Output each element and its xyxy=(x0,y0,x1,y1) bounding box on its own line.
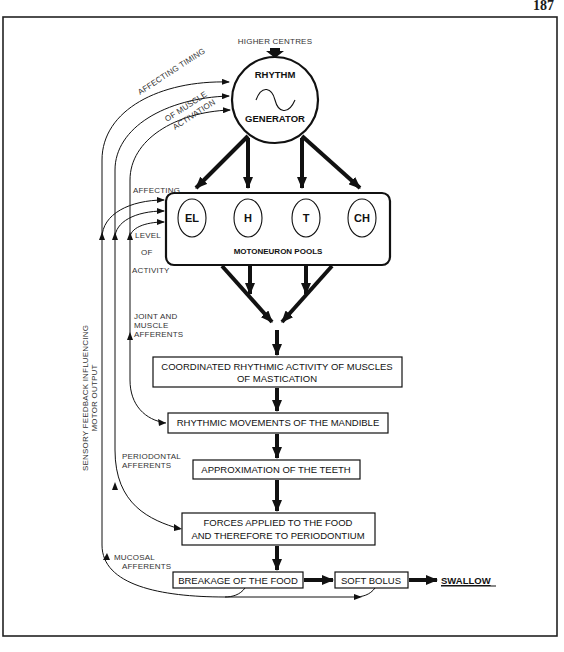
coordinated-activity-box: COORDINATED RHYTHMIC ACTIVITY OF MUSCLES… xyxy=(153,357,402,387)
pool-t: T xyxy=(303,212,310,224)
periodontal-afferents-line1: PERIODONTAL xyxy=(122,452,181,461)
affecting-label: AFFECTING xyxy=(133,186,180,195)
higher-centres-label: HIGHER CENTRES xyxy=(238,37,312,46)
mucosal-afferents-line1: MUCOSAL xyxy=(114,553,155,562)
swallow-label: SWALLOW xyxy=(441,575,491,586)
rhythmic-movements-label: RHYTHMIC MOVEMENTS OF THE MANDIBLE xyxy=(177,417,380,428)
rhythm-generator: RHYTHM GENERATOR xyxy=(232,57,318,143)
approximation-label: APPROXIMATION OF THE TEETH xyxy=(201,464,351,475)
joint-afferents-line3: AFFERENTS xyxy=(134,330,183,339)
pool-ch: CH xyxy=(354,212,370,224)
joint-afferents-line2: MUSCLE xyxy=(134,321,169,330)
coordinated-line2: OF MASTICATION xyxy=(237,373,317,384)
approximation-box: APPROXIMATION OF THE TEETH xyxy=(193,460,360,479)
soft-bolus-box: SOFT BOLUS xyxy=(335,572,408,588)
of-label: OF xyxy=(141,248,153,257)
pool-el: EL xyxy=(185,212,199,224)
pools-to-output-arrows xyxy=(222,266,332,355)
soft-bolus-label: SOFT BOLUS xyxy=(341,575,401,586)
breakage-label: BREAKAGE OF THE FOOD xyxy=(178,575,298,586)
coordinated-line1: COORDINATED RHYTHMIC ACTIVITY OF MUSCLES xyxy=(161,361,392,372)
periodontal-afferents-line2: AFFERENTS xyxy=(122,461,171,470)
level-label: LEVEL xyxy=(135,231,161,240)
forces-line2: AND THEREFORE TO PERIODONTIUM xyxy=(191,530,364,541)
forces-line1: FORCES APPLIED TO THE FOOD xyxy=(204,517,353,528)
mucosal-afferents-line2: AFFERENTS xyxy=(122,562,171,571)
activity-label: ACTIVITY xyxy=(132,266,170,275)
motoneuron-pools-title: MOTONEURON POOLS xyxy=(234,247,323,256)
generator-label: GENERATOR xyxy=(245,113,305,124)
sensory-feedback-line1: SENSORY FEEDBACK INFLUENCING xyxy=(81,325,90,471)
rhythmic-movements-box: RHYTHMIC MOVEMENTS OF THE MANDIBLE xyxy=(168,413,388,433)
mastication-control-diagram: HIGHER CENTRES RHYTHM GENERATOR EL H T C… xyxy=(0,0,564,652)
rhythm-label: RHYTHM xyxy=(255,69,296,80)
sensory-feedback-line2: MOTOR OUTPUT xyxy=(90,364,99,431)
pool-h: H xyxy=(244,212,252,224)
forces-box: FORCES APPLIED TO THE FOOD AND THEREFORE… xyxy=(182,513,375,545)
motoneuron-pools-box: EL H T CH MOTONEURON POOLS xyxy=(166,193,390,265)
joint-afferents-line1: JOINT AND xyxy=(134,312,177,321)
affecting-timing-label: AFFECTING TIMING xyxy=(136,46,207,96)
breakage-box: BREAKAGE OF THE FOOD xyxy=(173,572,303,588)
